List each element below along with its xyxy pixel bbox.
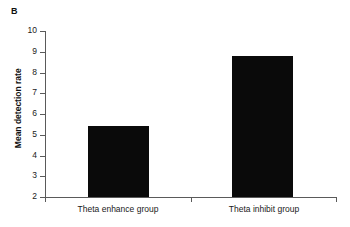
y-axis-tick-label: 3 <box>17 171 37 180</box>
x-axis-tick-middle <box>191 197 192 202</box>
y-axis-tick-label: 8 <box>17 68 37 77</box>
y-axis-tick <box>40 176 45 177</box>
y-axis-tick <box>40 114 45 115</box>
bar <box>232 56 293 197</box>
y-axis-tick <box>40 156 45 157</box>
y-axis-tick-label: 10 <box>17 26 37 35</box>
x-axis-tick-left <box>45 197 46 202</box>
y-axis-tick-label: 9 <box>17 47 37 56</box>
y-axis-tick-label: 2 <box>17 192 37 201</box>
y-axis-tick <box>40 52 45 53</box>
x-axis-tick-right <box>336 197 337 202</box>
y-axis-tick <box>40 93 45 94</box>
y-axis-tick-label: 7 <box>17 88 37 97</box>
y-axis-line <box>45 31 46 197</box>
x-axis-category-label: Theta enhance group <box>38 205 198 214</box>
plot-area: 2345678910 Theta enhance groupTheta inhi… <box>0 0 350 227</box>
y-axis-tick <box>40 135 45 136</box>
x-axis-category-label: Theta inhibit group <box>184 205 344 214</box>
y-axis-tick <box>40 73 45 74</box>
y-axis-tick <box>40 31 45 32</box>
y-axis-tick-label: 6 <box>17 109 37 118</box>
figure-panel-b: B Mean detection rate 2345678910 Theta e… <box>0 0 350 227</box>
bar <box>88 126 149 197</box>
y-axis-tick-label: 4 <box>17 151 37 160</box>
y-axis-tick-label: 5 <box>17 130 37 139</box>
